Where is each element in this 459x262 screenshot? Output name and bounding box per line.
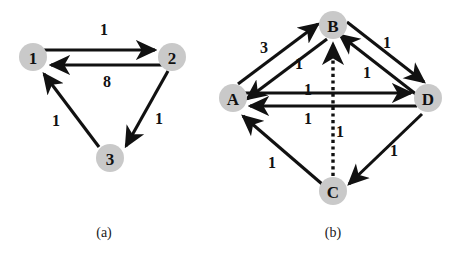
- caption-panel-b: (b): [325, 225, 342, 241]
- panel-b: B A D C 3 1 1 1: [219, 11, 442, 241]
- node-A-label: A: [227, 90, 240, 109]
- weight-label-A-to-D: 1: [304, 81, 312, 98]
- edge-2-to-3: [126, 71, 168, 146]
- weight-label-D-to-C: 1: [390, 142, 398, 159]
- node-D-label: D: [422, 90, 434, 109]
- edge-D-to-C: [349, 114, 422, 184]
- caption-panel-a: (a): [96, 225, 112, 241]
- weight-label-2-to-3: 1: [155, 110, 163, 127]
- weight-label-D-to-A: 1: [304, 110, 312, 127]
- panel-b-nodes: B A D C: [219, 11, 442, 205]
- weight-label-A-to-B: 3: [260, 39, 268, 56]
- node-1-label: 1: [29, 49, 38, 68]
- weight-label-B-to-D: 1: [383, 34, 391, 51]
- node-D[interactable]: D: [414, 84, 442, 112]
- graph-figure-canvas: 1 2 3 1 8 1 1 (a): [0, 0, 459, 262]
- edge-B-to-D: [347, 22, 424, 82]
- node-C[interactable]: C: [319, 177, 347, 205]
- weight-label-D-to-B: 1: [363, 64, 371, 81]
- node-B[interactable]: B: [319, 11, 347, 39]
- panel-a: 1 2 3 1 8 1 1 (a): [19, 21, 186, 241]
- panel-a-nodes: 1 2 3: [19, 43, 186, 172]
- node-2-label: 2: [168, 49, 177, 68]
- weight-label-C-to-B: 1: [336, 123, 344, 140]
- panel-a-edges: [44, 50, 168, 147]
- node-C-label: C: [327, 183, 339, 202]
- weight-label-C-to-A: 1: [268, 154, 276, 171]
- edge-3-to-1: [44, 74, 99, 147]
- node-3[interactable]: 3: [96, 144, 124, 172]
- node-1[interactable]: 1: [19, 43, 47, 71]
- weight-label-1-to-2: 1: [100, 21, 108, 38]
- node-B-label: B: [327, 17, 338, 36]
- graph-figure: 1 2 3 1 8 1 1 (a): [0, 0, 459, 262]
- edge-D-to-B: [340, 35, 417, 95]
- node-A[interactable]: A: [219, 84, 247, 112]
- node-2[interactable]: 2: [158, 43, 186, 71]
- weight-label-2-to-1: 8: [103, 73, 111, 90]
- weight-label-3-to-1: 1: [52, 112, 60, 129]
- weight-label-B-to-A: 1: [295, 55, 303, 72]
- node-3-label: 3: [106, 150, 115, 169]
